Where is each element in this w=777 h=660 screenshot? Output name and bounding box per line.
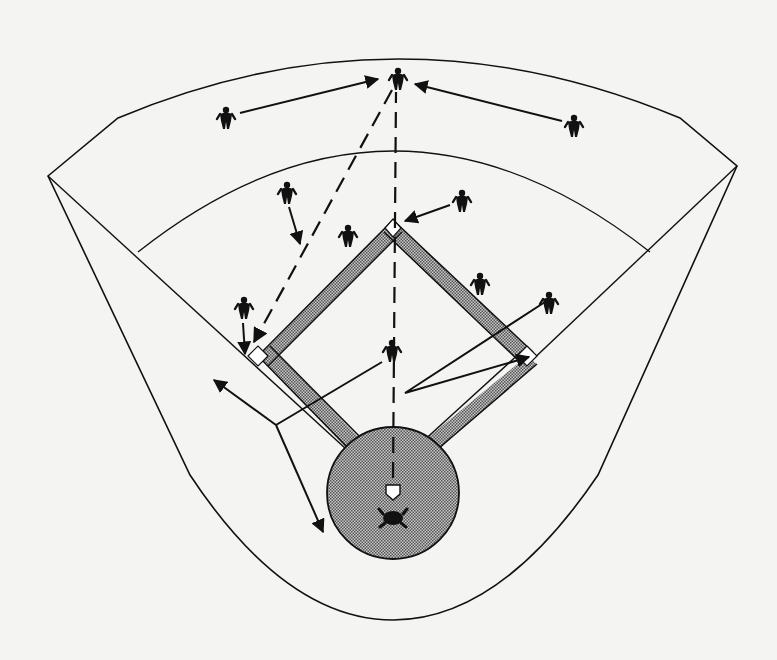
third-baseman-icon xyxy=(235,297,253,319)
base-paths xyxy=(258,220,537,454)
pitcher-icon xyxy=(383,340,401,362)
right-fielder-icon xyxy=(565,115,583,137)
center-fielder-icon xyxy=(389,68,407,90)
second-baseman-icon xyxy=(453,190,471,212)
first-baseman-icon xyxy=(471,273,489,295)
left-fielder-icon xyxy=(217,107,235,129)
left-foul-line xyxy=(48,176,393,492)
deep-shortstop-icon xyxy=(278,182,296,204)
shortstop-icon xyxy=(339,225,357,247)
baseball-field-diagram xyxy=(0,0,777,660)
